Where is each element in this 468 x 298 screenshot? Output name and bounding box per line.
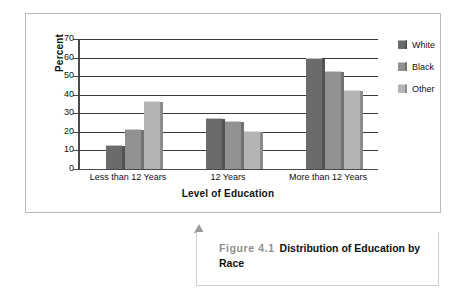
x-axis-title: Level of Education [78, 188, 378, 199]
chart-frame: Percent 010203040506070 Less than 12 Yea… [25, 13, 441, 213]
y-axis-tick-label: 30 [54, 108, 74, 117]
y-axis-tick-label: 60 [54, 53, 74, 62]
bar-face [344, 90, 360, 169]
chart-legend: WhiteBlackOther [398, 38, 442, 104]
figure-root: Percent 010203040506070 Less than 12 Yea… [0, 0, 468, 298]
y-axis-tick-label: 0 [54, 164, 74, 173]
bar-face [325, 71, 341, 169]
x-axis-category-label: More than 12 Years [278, 172, 378, 182]
y-axis-tick-label: 70 [54, 34, 74, 43]
bar-side [160, 102, 163, 169]
bar-face [125, 129, 141, 169]
legend-swatch-other-series [398, 84, 407, 93]
bar-face [106, 145, 122, 169]
y-axis-tick-label: 20 [54, 127, 74, 136]
figure-number: Figure 4.1 [219, 242, 275, 254]
figure-caption: Figure 4.1Distribution of Education by R… [219, 241, 431, 271]
bar-white-0 [106, 146, 125, 169]
gridline [78, 169, 378, 170]
legend-item-other[interactable]: Other [398, 82, 442, 95]
legend-label: White [412, 40, 435, 50]
bars-layer [80, 39, 378, 169]
bar-other-2 [344, 91, 363, 169]
legend-label: Other [412, 84, 435, 94]
bar-black-2 [325, 72, 344, 169]
legend-label: Black [412, 62, 434, 72]
y-axis-tick-label: 10 [54, 145, 74, 154]
bar-face [306, 58, 322, 169]
bar-group [206, 39, 263, 169]
bar-group [306, 39, 363, 169]
legend-swatch-white-series [398, 40, 407, 49]
legend-item-white[interactable]: White [398, 38, 442, 51]
y-axis-tick-label: 50 [54, 71, 74, 80]
bar-black-0 [125, 130, 144, 169]
bar-group [106, 39, 163, 169]
figure-caption-box: Figure 4.1Distribution of Education by R… [196, 232, 439, 286]
bar-face [206, 118, 222, 169]
bar-other-0 [144, 102, 163, 169]
bar-side [260, 132, 263, 169]
legend-item-black[interactable]: Black [398, 60, 442, 73]
bar-black-1 [225, 122, 244, 169]
bar-other-1 [244, 132, 263, 169]
bar-face [244, 131, 260, 169]
plot-area: 010203040506070 [78, 39, 378, 169]
bar-white-2 [306, 59, 325, 169]
bar-white-1 [206, 119, 225, 169]
x-axis-category-label: 12 Years [178, 172, 278, 182]
x-axis-category-label: Less than 12 Years [78, 172, 178, 182]
legend-swatch-black-series [398, 62, 407, 71]
y-axis-tick-labels: 010203040506070 [54, 39, 74, 169]
y-axis-tick-label: 40 [54, 90, 74, 99]
bar-face [225, 121, 241, 169]
x-axis-category-labels: Less than 12 Years12 YearsMore than 12 Y… [78, 172, 378, 186]
bar-side [360, 91, 363, 169]
bar-face [144, 101, 160, 169]
